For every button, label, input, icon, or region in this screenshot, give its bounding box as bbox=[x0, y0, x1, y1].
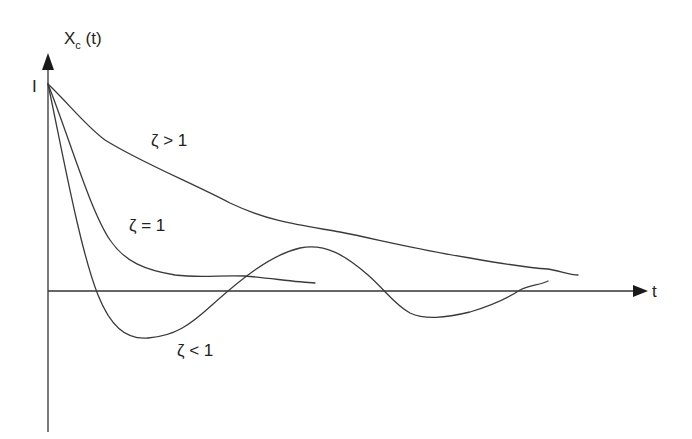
x-axis-arrow-icon bbox=[633, 285, 648, 297]
label-underdamped: ζ < 1 bbox=[177, 341, 213, 360]
initial-value-label: I bbox=[32, 77, 37, 96]
x-axis-label: t bbox=[652, 282, 657, 301]
label-critically-damped: ζ = 1 bbox=[129, 216, 165, 235]
curve-underdamped bbox=[48, 84, 548, 338]
curve-critically-damped bbox=[48, 84, 315, 283]
y-axis-label: Xc (t) bbox=[64, 29, 102, 51]
damping-response-diagram: Xc (t) t I ζ > 1 ζ = 1 ζ < 1 bbox=[0, 0, 692, 439]
y-axis-arrow-icon bbox=[42, 53, 54, 70]
label-overdamped: ζ > 1 bbox=[151, 131, 187, 150]
